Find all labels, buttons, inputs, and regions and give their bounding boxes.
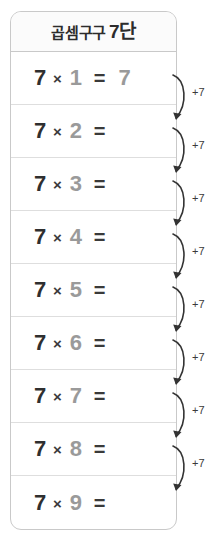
step-arrow: +7 bbox=[170, 176, 220, 232]
multiplicand: 7 bbox=[33, 332, 47, 354]
curved-arrow-icon bbox=[170, 335, 196, 391]
equation: 7×1=7 bbox=[33, 67, 132, 89]
card-header: 곱셈구구7단 bbox=[11, 12, 176, 52]
equals-sign-icon: = bbox=[94, 68, 106, 88]
table-row: 7×6= bbox=[11, 317, 176, 370]
equals-sign-icon: = bbox=[94, 386, 106, 406]
curved-arrow-icon bbox=[170, 282, 196, 338]
step-arrow-label: +7 bbox=[192, 458, 205, 469]
step-arrow: +7 bbox=[170, 335, 220, 391]
equals-sign-icon: = bbox=[94, 439, 106, 459]
table-row: 7×3= bbox=[11, 158, 176, 211]
multiplicand: 7 bbox=[33, 173, 47, 195]
multiply-sign-icon: × bbox=[53, 230, 62, 245]
table-row: 7×9= bbox=[11, 476, 176, 529]
equals-sign-icon: = bbox=[94, 493, 106, 513]
multiply-sign-icon: × bbox=[53, 177, 62, 192]
multiply-sign-icon: × bbox=[53, 496, 62, 511]
title-prefix: 곱셈구구 bbox=[51, 24, 106, 41]
table-row: 7×8= bbox=[11, 423, 176, 476]
multiplicand: 7 bbox=[33, 385, 47, 407]
multiplication-worksheet: 곱셈구구7단 7×1=77×2=7×3=7×4=7×5=7×6=7×7=7×8=… bbox=[0, 0, 223, 543]
multiplier: 8 bbox=[69, 438, 83, 460]
equation: 7×4= bbox=[33, 226, 132, 248]
step-arrow-label: +7 bbox=[192, 193, 205, 204]
curved-arrow-icon bbox=[170, 229, 196, 285]
multiplication-table-card: 곱셈구구7단 7×1=77×2=7×3=7×4=7×5=7×6=7×7=7×8=… bbox=[10, 11, 177, 530]
curved-arrow-icon bbox=[170, 441, 196, 497]
multiplier: 6 bbox=[69, 332, 83, 354]
multiplicand: 7 bbox=[33, 438, 47, 460]
multiplier: 9 bbox=[69, 492, 83, 514]
page-title: 곱셈구구7단 bbox=[51, 22, 136, 41]
multiplier: 7 bbox=[69, 385, 83, 407]
step-arrow: +7 bbox=[170, 388, 220, 444]
multiplicand: 7 bbox=[33, 279, 47, 301]
multiplier: 4 bbox=[69, 226, 83, 248]
multiplicand: 7 bbox=[33, 226, 47, 248]
multiply-sign-icon: × bbox=[53, 442, 62, 457]
step-arrow-label: +7 bbox=[192, 352, 205, 363]
equals-sign-icon: = bbox=[94, 121, 106, 141]
multiply-sign-icon: × bbox=[53, 283, 62, 298]
step-arrow: +7 bbox=[170, 441, 220, 497]
equals-sign-icon: = bbox=[94, 333, 106, 353]
title-dan: 7단 bbox=[106, 21, 136, 42]
multiply-sign-icon: × bbox=[53, 71, 62, 86]
curved-arrow-icon bbox=[170, 70, 196, 126]
table-row: 7×2= bbox=[11, 105, 176, 158]
curved-arrow-icon bbox=[170, 123, 196, 179]
step-arrow-label: +7 bbox=[192, 140, 205, 151]
multiply-sign-icon: × bbox=[53, 124, 62, 139]
multiplier: 3 bbox=[69, 173, 83, 195]
equals-sign-icon: = bbox=[94, 174, 106, 194]
step-arrow: +7 bbox=[170, 70, 220, 126]
multiplicand: 7 bbox=[33, 492, 47, 514]
equation-list: 7×1=77×2=7×3=7×4=7×5=7×6=7×7=7×8=7×9= bbox=[11, 52, 176, 529]
step-arrow: +7 bbox=[170, 229, 220, 285]
answer-blank[interactable]: 7 bbox=[118, 67, 132, 89]
multiplier: 5 bbox=[69, 279, 83, 301]
equation: 7×6= bbox=[33, 332, 132, 354]
step-arrow-label: +7 bbox=[192, 405, 205, 416]
multiplicand: 7 bbox=[33, 67, 47, 89]
equals-sign-icon: = bbox=[94, 280, 106, 300]
step-arrow-label: +7 bbox=[192, 299, 205, 310]
multiply-sign-icon: × bbox=[53, 336, 62, 351]
multiplier: 1 bbox=[69, 67, 83, 89]
equation: 7×2= bbox=[33, 120, 132, 142]
step-arrow: +7 bbox=[170, 123, 220, 179]
table-row: 7×5= bbox=[11, 264, 176, 317]
equation: 7×5= bbox=[33, 279, 132, 301]
multiplier: 2 bbox=[69, 120, 83, 142]
step-arrow-label: +7 bbox=[192, 87, 205, 98]
table-row: 7×7= bbox=[11, 370, 176, 423]
table-row: 7×4= bbox=[11, 211, 176, 264]
step-arrow-label: +7 bbox=[192, 246, 205, 257]
curved-arrow-icon bbox=[170, 176, 196, 232]
multiply-sign-icon: × bbox=[53, 389, 62, 404]
step-arrow: +7 bbox=[170, 282, 220, 338]
equation: 7×9= bbox=[33, 492, 132, 514]
equation: 7×8= bbox=[33, 438, 132, 460]
equation: 7×3= bbox=[33, 173, 132, 195]
equals-sign-icon: = bbox=[94, 227, 106, 247]
curved-arrow-icon bbox=[170, 388, 196, 444]
multiplicand: 7 bbox=[33, 120, 47, 142]
equation: 7×7= bbox=[33, 385, 132, 407]
table-row: 7×1=7 bbox=[11, 52, 176, 105]
